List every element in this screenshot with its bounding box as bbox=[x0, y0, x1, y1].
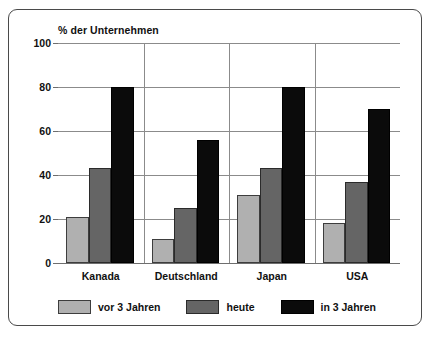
group-separator-2 bbox=[229, 43, 230, 263]
bar-japan-series0 bbox=[237, 195, 260, 263]
group-separator-3 bbox=[315, 43, 316, 263]
gridline-0 bbox=[58, 263, 400, 264]
legend-swatch-icon-series2 bbox=[281, 300, 314, 314]
legend-item-series0[interactable]: vor 3 Jahren bbox=[58, 300, 160, 314]
legend-swatch-icon-series0 bbox=[58, 300, 91, 314]
y-axis-label-100: 100 bbox=[33, 37, 51, 49]
chart-legend: vor 3 Jahrenheutein 3 Jahren bbox=[0, 300, 434, 314]
bar-usa-series2 bbox=[368, 109, 391, 263]
x-axis-label-japan: Japan bbox=[257, 270, 287, 282]
bar-usa-series1 bbox=[345, 182, 368, 263]
bar-kanada-series0 bbox=[66, 217, 89, 263]
legend-label-series2: in 3 Jahren bbox=[321, 301, 376, 313]
plot-area: 020406080100 bbox=[58, 43, 400, 263]
chart-title: % der Unternehmen bbox=[58, 24, 159, 36]
y-axis-label-0: 0 bbox=[45, 257, 51, 269]
legend-label-series1: heute bbox=[226, 301, 254, 313]
y-tickmark-80 bbox=[53, 87, 58, 88]
chart-figure: % der Unternehmen 020406080100 vor 3 Jah… bbox=[0, 0, 434, 338]
bar-deutschland-series1 bbox=[174, 208, 197, 263]
x-axis-label-kanada: Kanada bbox=[82, 270, 120, 282]
y-tickmark-40 bbox=[53, 175, 58, 176]
bar-kanada-series2 bbox=[111, 87, 134, 263]
bar-usa-series0 bbox=[323, 223, 346, 263]
y-tickmark-0 bbox=[53, 263, 58, 264]
x-axis-label-usa: USA bbox=[346, 270, 368, 282]
group-separator-1 bbox=[144, 43, 145, 263]
y-axis-label-60: 60 bbox=[39, 125, 51, 137]
bar-deutschland-series0 bbox=[152, 239, 175, 263]
y-axis-label-40: 40 bbox=[39, 169, 51, 181]
y-axis-label-20: 20 bbox=[39, 213, 51, 225]
legend-item-series2[interactable]: in 3 Jahren bbox=[281, 300, 376, 314]
x-axis-label-deutschland: Deutschland bbox=[155, 270, 218, 282]
bar-japan-series2 bbox=[282, 87, 305, 263]
bar-deutschland-series2 bbox=[197, 140, 220, 263]
legend-label-series0: vor 3 Jahren bbox=[98, 301, 160, 313]
y-tickmark-20 bbox=[53, 219, 58, 220]
y-tickmark-100 bbox=[53, 43, 58, 44]
y-tickmark-60 bbox=[53, 131, 58, 132]
legend-swatch-icon-series1 bbox=[186, 300, 219, 314]
legend-item-series1[interactable]: heute bbox=[186, 300, 254, 314]
bar-kanada-series1 bbox=[89, 168, 112, 263]
y-axis-label-80: 80 bbox=[39, 81, 51, 93]
bar-japan-series1 bbox=[260, 168, 283, 263]
